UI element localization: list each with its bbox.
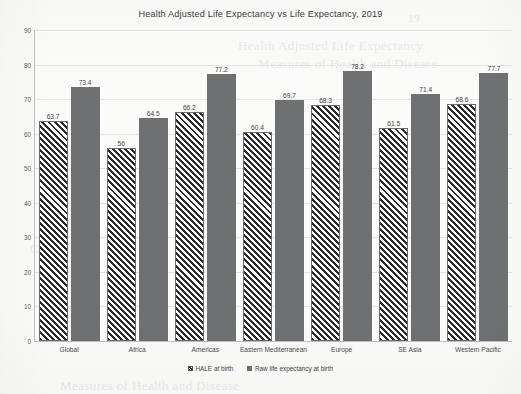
bar-value-label: 61.5 xyxy=(387,120,400,127)
bar: 56 xyxy=(107,148,136,342)
bar-group: 61.571.4SE Asia xyxy=(376,30,444,341)
y-axis-tick-label: 70 xyxy=(24,96,31,103)
bar: 73.4 xyxy=(71,87,100,341)
bar-value-label: 60.4 xyxy=(251,124,264,131)
bar-value-label: 68.3 xyxy=(319,97,332,104)
bar-group: 66.277.2Americas xyxy=(171,30,239,341)
bar-group: 68.677.7Western Pacific xyxy=(444,30,512,341)
bar: 78.2 xyxy=(343,71,372,341)
bar: 63.7 xyxy=(39,121,68,341)
bar-group: 5664.5Africa xyxy=(103,30,171,341)
bar-value-label: 66.2 xyxy=(183,104,196,111)
x-axis-tick-label: Western Pacific xyxy=(455,346,501,353)
x-axis-tick-label: Global xyxy=(60,346,79,353)
bar-value-label: 64.5 xyxy=(147,110,160,117)
legend-label: Raw life expectancy at birth xyxy=(255,365,333,372)
bar: 60.4 xyxy=(243,132,272,341)
x-axis-tick-label: Africa xyxy=(129,346,146,353)
bar-value-label: 68.6 xyxy=(455,96,468,103)
bar-value-label: 63.7 xyxy=(47,113,60,120)
bar-value-label: 77.7 xyxy=(487,65,500,72)
bar-value-label: 71.4 xyxy=(419,86,432,93)
bar: 77.2 xyxy=(207,74,236,341)
bar: 71.4 xyxy=(411,94,440,341)
y-axis-tick-label: 30 xyxy=(24,234,31,241)
chart-legend: HALE at birthRaw life expectancy at birt… xyxy=(0,365,521,372)
bar: 64.5 xyxy=(139,118,168,341)
bar: 61.5 xyxy=(379,128,408,341)
plot-area: 9080706050403020100 63.773.4Global5664.5… xyxy=(34,30,512,342)
legend-label: HALE at birth xyxy=(195,365,233,372)
legend-swatch-icon xyxy=(247,366,252,371)
legend-swatch-icon xyxy=(188,366,193,371)
bar-value-label: 56 xyxy=(118,140,125,147)
bar-value-label: 69.7 xyxy=(283,92,296,99)
y-axis-tick-label: 90 xyxy=(24,27,31,34)
bar: 66.2 xyxy=(175,112,204,341)
bar-group: 68.378.2Europe xyxy=(308,30,376,341)
legend-item[interactable]: HALE at birth xyxy=(188,365,234,372)
bar-chart: Health Adjusted Life Expectancy vs Life … xyxy=(0,0,521,394)
x-axis-tick-label: SE Asia xyxy=(398,346,421,353)
bar: 77.7 xyxy=(479,73,508,341)
bar: 68.6 xyxy=(447,104,476,341)
bar-group: 60.469.7Eastern Mediterranean xyxy=(239,30,307,341)
y-axis-tick-label: 60 xyxy=(24,130,31,137)
bar-value-label: 78.2 xyxy=(351,63,364,70)
y-axis-tick-label: 40 xyxy=(24,199,31,206)
legend-item[interactable]: Raw life expectancy at birth xyxy=(247,365,333,372)
chart-title: Health Adjusted Life Expectancy vs Life … xyxy=(0,9,521,19)
bar-group: 63.773.4Global xyxy=(35,30,103,341)
x-axis-tick-label: Americas xyxy=(192,346,219,353)
scanned-page: 19 Health Adjusted Life Expectancy Measu… xyxy=(0,0,521,394)
bar: 68.3 xyxy=(311,105,340,341)
y-axis-tick-label: 20 xyxy=(24,268,31,275)
bar-value-label: 73.4 xyxy=(79,79,92,86)
x-axis-tick-label: Europe xyxy=(331,346,352,353)
bar-groups: 63.773.4Global5664.5Africa66.277.2Americ… xyxy=(35,30,512,341)
y-axis-tick-label: 0 xyxy=(27,338,31,345)
y-axis-tick-label: 50 xyxy=(24,165,31,172)
y-axis-tick-label: 10 xyxy=(24,303,31,310)
y-axis-tick-label: 80 xyxy=(24,61,31,68)
bar-value-label: 77.2 xyxy=(215,66,228,73)
x-axis-tick-label: Eastern Mediterranean xyxy=(240,346,307,353)
bar: 69.7 xyxy=(275,100,304,341)
